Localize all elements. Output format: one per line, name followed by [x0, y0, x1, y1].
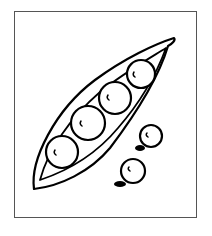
loose-pea-2 [121, 159, 145, 183]
loose-pea-1-shadow [135, 145, 145, 151]
pea-in-pod-1 [46, 136, 78, 168]
loose-pea-2-shadow [114, 181, 126, 187]
pea-pod-illustration [0, 0, 212, 236]
pea-in-pod-2 [71, 106, 105, 140]
pea-in-pod-4 [127, 60, 155, 88]
loose-pea-1 [140, 125, 162, 147]
pea-in-pod-3 [99, 82, 131, 114]
